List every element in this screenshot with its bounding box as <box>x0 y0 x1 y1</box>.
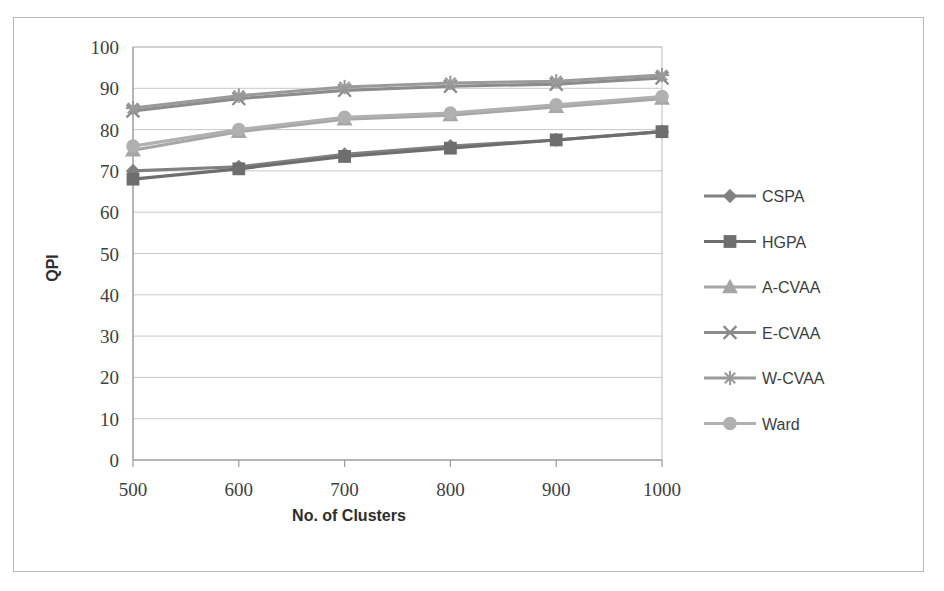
legend-item-ward[interactable]: Ward <box>704 416 800 433</box>
data-point-marker-circle <box>724 418 736 430</box>
y-tick-label: 60 <box>100 202 119 223</box>
legend-item-a-cvaa[interactable]: A-CVAA <box>704 279 821 296</box>
y-tick-label: 30 <box>100 326 119 347</box>
legend-item-label: A-CVAA <box>762 279 821 296</box>
x-tick-label: 1000 <box>643 479 681 500</box>
legend-item-hgpa[interactable]: HGPA <box>704 234 806 251</box>
data-point-marker-circle <box>656 91 668 103</box>
x-axis-tick-marks <box>133 460 662 467</box>
data-point-marker-square <box>339 151 350 162</box>
figure-outer-frame: 0102030405060708090100 50060070080090010… <box>13 17 924 572</box>
chart-legend: CSPAHGPAA-CVAAE-CVAAW-CVAAWard <box>704 188 825 433</box>
y-tick-label: 90 <box>100 78 119 99</box>
y-tick-label: 80 <box>100 120 119 141</box>
data-point-marker-circle <box>339 111 351 123</box>
x-axis-title: No. of Clusters <box>292 507 406 524</box>
series-w-cvaa <box>126 68 669 115</box>
y-tick-label: 40 <box>100 285 119 306</box>
legend-item-label: E-CVAA <box>762 325 821 342</box>
y-tick-label: 70 <box>100 161 119 182</box>
y-axis-title: QPI <box>44 254 61 282</box>
data-point-marker-circle <box>127 140 139 152</box>
x-tick-label: 900 <box>542 479 571 500</box>
y-axis-tick-labels: 0102030405060708090100 <box>91 37 120 471</box>
y-tick-label: 0 <box>110 450 120 471</box>
legend-item-label: HGPA <box>762 234 806 251</box>
y-tick-label: 20 <box>100 367 119 388</box>
series-line <box>133 132 662 179</box>
x-tick-label: 600 <box>225 479 254 500</box>
legend-item-cspa[interactable]: CSPA <box>704 188 805 205</box>
data-point-marker-square <box>445 143 456 154</box>
data-point-marker-circle <box>550 99 562 111</box>
y-tick-label: 50 <box>100 244 119 265</box>
data-point-marker-square <box>724 236 735 247</box>
data-point-marker-square <box>127 174 138 185</box>
legend-item-e-cvaa[interactable]: E-CVAA <box>704 325 821 342</box>
chart-plot-container: 0102030405060708090100 50060070080090010… <box>14 18 925 573</box>
gridlines-group <box>133 47 662 460</box>
data-point-marker-diamond <box>724 190 736 202</box>
x-tick-label: 700 <box>330 479 359 500</box>
y-tick-label: 100 <box>91 37 120 58</box>
data-point-marker-circle <box>444 107 456 119</box>
x-tick-label: 500 <box>119 479 148 500</box>
data-series-group <box>126 68 669 185</box>
x-axis-tick-labels: 5006007008009001000 <box>119 479 681 500</box>
data-point-marker-square <box>233 163 244 174</box>
line-chart: 0102030405060708090100 50060070080090010… <box>14 18 925 573</box>
legend-item-label: CSPA <box>762 188 805 205</box>
data-point-marker-square <box>656 126 667 137</box>
series-line <box>133 99 662 151</box>
y-tick-label: 10 <box>100 409 119 430</box>
data-point-marker-square <box>551 134 562 145</box>
x-tick-label: 800 <box>436 479 465 500</box>
data-point-marker-circle <box>233 124 245 136</box>
legend-item-label: Ward <box>762 416 800 433</box>
legend-item-w-cvaa[interactable]: W-CVAA <box>704 370 825 387</box>
legend-item-label: W-CVAA <box>762 370 825 387</box>
